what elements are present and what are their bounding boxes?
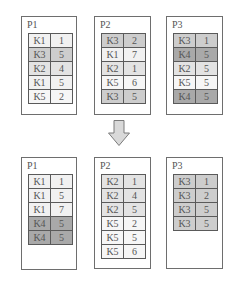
table-row: K55 (174, 76, 218, 90)
value-cell: 5 (196, 203, 218, 217)
table-row: K24 (29, 62, 73, 76)
table-row: K45 (174, 90, 218, 104)
key-cell: K5 (174, 76, 196, 90)
key-cell: K5 (102, 245, 124, 259)
partition-label: P3 (172, 19, 183, 30)
before-partition-p3: P3 K31K45K25K55K45 (166, 16, 223, 115)
after-partition-p2: P2 K21K24K25K52K55K56 (94, 157, 151, 269)
table-row: K35 (29, 48, 73, 62)
partition-table: K21K24K25K52K55K56 (101, 174, 146, 259)
key-cell: K2 (174, 62, 196, 76)
key-cell: K4 (29, 217, 51, 231)
table-row: K15 (29, 189, 73, 203)
key-cell: K3 (174, 217, 196, 231)
table-row: K55 (102, 231, 146, 245)
value-cell: 7 (51, 203, 73, 217)
value-cell: 4 (51, 62, 73, 76)
after-partition-p3: P3 K31K32K35K35 (166, 157, 223, 269)
partition-table: K32K17K21K56K35 (101, 33, 146, 104)
key-cell: K2 (102, 203, 124, 217)
key-cell: K3 (29, 48, 51, 62)
value-cell: 6 (124, 76, 146, 90)
partition-table: K11K35K24K15K52 (28, 33, 73, 104)
key-cell: K3 (174, 34, 196, 48)
table-row: K45 (29, 231, 73, 245)
key-cell: K3 (102, 90, 124, 104)
table-row: K15 (29, 76, 73, 90)
value-cell: 1 (124, 175, 146, 189)
table-row: K11 (29, 175, 73, 189)
key-cell: K4 (174, 48, 196, 62)
key-cell: K1 (102, 48, 124, 62)
key-cell: K3 (174, 175, 196, 189)
table-row: K35 (174, 217, 218, 231)
key-cell: K1 (29, 175, 51, 189)
table-row: K31 (174, 34, 218, 48)
partition-table: K31K32K35K35 (173, 174, 218, 231)
partition-label: P1 (27, 160, 38, 171)
value-cell: 4 (124, 189, 146, 203)
table-row: K11 (29, 34, 73, 48)
table-row: K32 (174, 189, 218, 203)
value-cell: 5 (51, 231, 73, 245)
table-row: K21 (102, 175, 146, 189)
value-cell: 1 (196, 34, 218, 48)
value-cell: 1 (124, 62, 146, 76)
after-partition-p1: P1 K11K15K17K45K45 (21, 157, 77, 270)
key-cell: K5 (29, 90, 51, 104)
key-cell: K3 (174, 189, 196, 203)
value-cell: 1 (51, 175, 73, 189)
partition-label: P3 (172, 160, 183, 171)
before-partition-p2: P2 K32K17K21K56K35 (94, 16, 151, 115)
table-row: K17 (29, 203, 73, 217)
table-row: K21 (102, 62, 146, 76)
value-cell: 5 (196, 90, 218, 104)
value-cell: 5 (124, 231, 146, 245)
value-cell: 7 (124, 48, 146, 62)
key-cell: K2 (102, 175, 124, 189)
table-row: K45 (29, 217, 73, 231)
partition-table: K31K45K25K55K45 (173, 33, 218, 104)
key-cell: K3 (174, 203, 196, 217)
value-cell: 5 (196, 217, 218, 231)
value-cell: 6 (124, 245, 146, 259)
table-row: K35 (102, 90, 146, 104)
partition-label: P1 (27, 19, 38, 30)
value-cell: 5 (124, 203, 146, 217)
value-cell: 5 (196, 48, 218, 62)
table-row: K24 (102, 189, 146, 203)
value-cell: 2 (124, 34, 146, 48)
key-cell: K5 (102, 76, 124, 90)
value-cell: 5 (51, 189, 73, 203)
value-cell: 2 (196, 189, 218, 203)
key-cell: K1 (29, 203, 51, 217)
value-cell: 2 (124, 217, 146, 231)
value-cell: 2 (51, 90, 73, 104)
partition-label: P2 (100, 19, 111, 30)
key-cell: K4 (29, 231, 51, 245)
table-row: K25 (102, 203, 146, 217)
partition-table: K11K15K17K45K45 (28, 174, 73, 245)
table-row: K56 (102, 245, 146, 259)
value-cell: 5 (196, 62, 218, 76)
key-cell: K1 (29, 76, 51, 90)
table-row: K52 (29, 90, 73, 104)
value-cell: 5 (51, 217, 73, 231)
key-cell: K2 (102, 62, 124, 76)
table-row: K56 (102, 76, 146, 90)
value-cell: 5 (196, 76, 218, 90)
value-cell: 1 (196, 175, 218, 189)
partition-label: P2 (100, 160, 111, 171)
key-cell: K4 (174, 90, 196, 104)
key-cell: K1 (29, 34, 51, 48)
table-row: K31 (174, 175, 218, 189)
key-cell: K5 (102, 217, 124, 231)
value-cell: 5 (51, 48, 73, 62)
value-cell: 1 (51, 34, 73, 48)
key-cell: K2 (29, 62, 51, 76)
table-row: K35 (174, 203, 218, 217)
table-row: K45 (174, 48, 218, 62)
down-arrow-icon (108, 120, 130, 146)
table-row: K25 (174, 62, 218, 76)
table-row: K52 (102, 217, 146, 231)
